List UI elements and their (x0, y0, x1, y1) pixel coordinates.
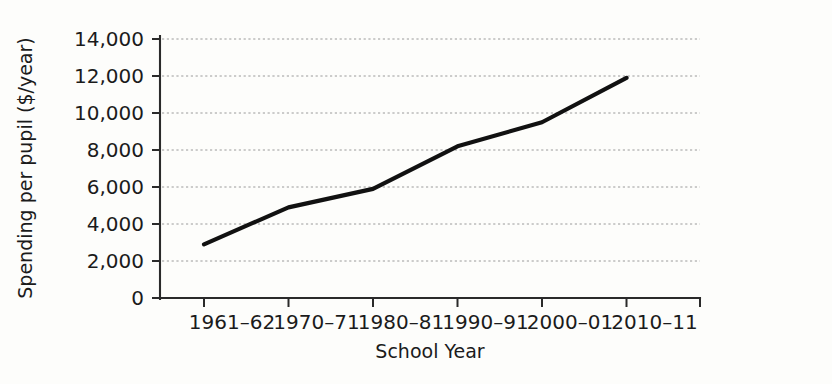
x-tick-label: 1990–91 (442, 310, 528, 334)
x-tick-labels-group: 1961–621970–711980–811990–912000–012010–… (189, 310, 698, 334)
x-tick-label: 1970–71 (273, 310, 359, 334)
y-tick-label: 4,000 (87, 212, 144, 236)
y-tick-label: 8,000 (87, 138, 144, 162)
x-tick-label: 2010–11 (611, 310, 697, 334)
x-tick-label: 1961–62 (189, 310, 275, 334)
y-axis-title: Spending per pupil ($/year) (14, 37, 36, 298)
x-tick-label: 1980–81 (358, 310, 444, 334)
x-tick-label: 2000–01 (527, 310, 613, 334)
line-chart: 02,0004,0006,0008,00010,00012,00014,000 … (0, 0, 832, 384)
chart-page: 02,0004,0006,0008,00010,00012,00014,000 … (0, 0, 832, 384)
y-tick-label: 10,000 (74, 101, 144, 125)
y-tick-label: 12,000 (74, 64, 144, 88)
x-tick-marks-group (204, 298, 700, 307)
x-axis-title: School Year (375, 340, 485, 362)
y-tick-label: 14,000 (74, 27, 144, 51)
data-series-line (204, 78, 627, 245)
y-tick-label: 0 (131, 286, 144, 310)
y-tick-labels-group: 02,0004,0006,0008,00010,00012,00014,000 (74, 27, 144, 310)
y-tick-marks-group (152, 39, 160, 298)
y-tick-label: 2,000 (87, 249, 144, 273)
y-tick-label: 6,000 (87, 175, 144, 199)
